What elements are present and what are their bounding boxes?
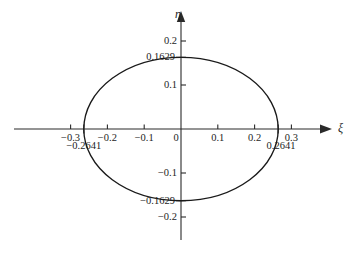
y-tick-label--0.1: −0.1 <box>148 168 177 179</box>
y-vertex-label-0.1629: 0.1629 <box>130 52 175 63</box>
y-tick-label--0.2: −0.2 <box>148 212 177 223</box>
x-tick-label-0.2: 0.2 <box>248 133 261 144</box>
ellipse-plot-canvas <box>0 0 360 258</box>
x-axis-arrow-icon <box>320 125 332 134</box>
x-vertex-label-0.2641: 0.2641 <box>267 141 296 152</box>
y-tick-label-0.1: 0.1 <box>155 80 177 91</box>
x-vertex-label--0.2641: −0.2641 <box>66 141 101 152</box>
x-tick-label-0: 0 <box>173 133 178 144</box>
y-vertex-label--0.1629: −0.1629 <box>124 195 175 206</box>
x-tick-label--0.1: −0.1 <box>135 133 154 144</box>
x-axis-label: ξ <box>338 122 343 134</box>
y-axis-label: η <box>175 8 181 20</box>
x-tick-label-0.1: 0.1 <box>211 133 224 144</box>
y-tick-label-0.2: 0.2 <box>155 36 177 47</box>
